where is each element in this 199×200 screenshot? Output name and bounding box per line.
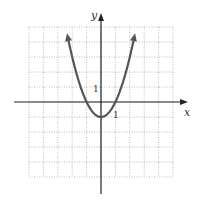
x-tick-label: 1 — [113, 110, 119, 120]
curve-arrow-right-icon — [130, 33, 137, 42]
x-axis-label: x — [184, 106, 191, 119]
graph: x y 1 1 — [0, 0, 199, 200]
y-axis-arrow-icon — [98, 13, 104, 21]
curve-arrow-left-icon — [65, 33, 72, 42]
x-axis-arrow-icon — [180, 99, 188, 105]
y-axis-label: y — [90, 9, 98, 22]
y-tick-label: 1 — [93, 84, 99, 94]
